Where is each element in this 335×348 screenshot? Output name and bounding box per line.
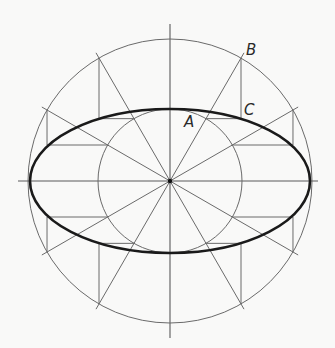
- label-b: B: [246, 41, 256, 59]
- ellipse-construction-diagram: A B C: [0, 0, 335, 348]
- center-dot: [168, 179, 172, 183]
- point-labels: A B C: [183, 41, 256, 131]
- label-a: A: [183, 113, 194, 131]
- center-point: [168, 179, 172, 183]
- label-c: C: [244, 101, 255, 119]
